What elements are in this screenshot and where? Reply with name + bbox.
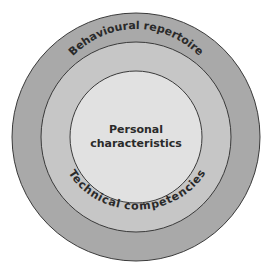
inner-label-line1: Personal <box>109 123 163 136</box>
concentric-diagram: Behavioural repertoire Technical compete… <box>0 0 272 273</box>
inner-label-line2: characteristics <box>90 137 182 150</box>
